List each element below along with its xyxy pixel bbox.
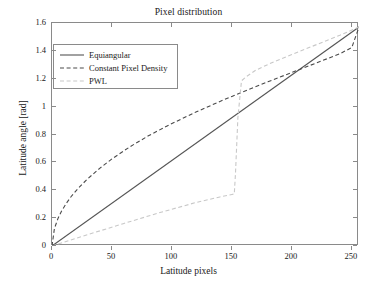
y-tick-mark [52,161,56,162]
y-tick-mark [353,50,357,51]
x-tick-mark [351,23,352,27]
legend-item[interactable]: Equiangular [54,48,177,61]
y-tick-mark [52,134,56,135]
legend-label: Equiangular [89,50,131,60]
legend-label: PWL [89,76,107,86]
y-tick-mark [52,50,56,51]
y-tick-label: 0.6 [35,156,46,166]
y-tick-label: 1 [42,101,46,111]
chart-legend: EquiangularConstant Pixel DensityPWL [53,44,178,89]
y-axis-title: Latitude angle [rad] [18,68,28,208]
chart-title: Pixel distribution [0,7,377,17]
y-tick-label: 0.2 [35,212,46,222]
legend-line-swatch [59,63,85,73]
x-tick-label: 200 [284,251,297,261]
y-tick-mark [52,78,56,79]
y-tick-mark [353,161,357,162]
x-tick-label: 250 [344,251,357,261]
x-tick-mark [51,23,52,27]
legend-line-swatch [59,50,85,60]
y-tick-mark [52,217,56,218]
y-tick-mark [353,134,357,135]
x-tick-mark [51,246,52,250]
x-tick-mark [111,246,112,250]
x-tick-mark [231,246,232,250]
chart-figure: Pixel distribution Latitude pixels Latit… [0,0,377,287]
y-tick-mark [52,245,56,246]
x-tick-mark [171,246,172,250]
x-tick-label: 0 [49,251,53,261]
y-tick-mark [353,78,357,79]
x-tick-label: 100 [165,251,178,261]
legend-item[interactable]: Constant Pixel Density [54,61,177,74]
y-tick-label: 0.8 [35,129,46,139]
legend-line-swatch [59,76,85,86]
y-tick-mark [52,189,56,190]
y-tick-mark [353,217,357,218]
y-tick-mark [353,22,357,23]
x-axis-title: Latitude pixels [0,266,377,276]
legend-label: Constant Pixel Density [89,63,167,73]
y-tick-label: 0.4 [35,184,46,194]
x-tick-mark [171,23,172,27]
y-tick-mark [52,22,56,23]
x-tick-mark [231,23,232,27]
x-tick-label: 50 [107,251,116,261]
y-tick-mark [353,245,357,246]
legend-item[interactable]: PWL [54,74,177,87]
x-tick-mark [351,246,352,250]
y-tick-mark [353,106,357,107]
x-tick-mark [111,23,112,27]
y-tick-mark [353,189,357,190]
x-tick-mark [291,246,292,250]
y-tick-label: 1.2 [35,73,46,83]
y-tick-label: 1.6 [35,17,46,27]
x-tick-mark [291,23,292,27]
y-tick-label: 1.4 [35,45,46,55]
y-tick-mark [52,106,56,107]
x-tick-label: 150 [225,251,238,261]
y-tick-label: 0 [42,240,46,250]
